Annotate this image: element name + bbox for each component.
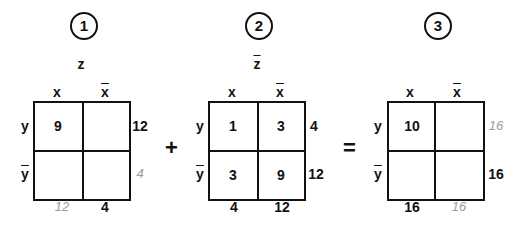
row-label-y-bar: y: [190, 166, 210, 182]
row-label-y: y: [190, 118, 210, 134]
cell-xbar-ybar: 9: [266, 167, 296, 183]
cell-xy: 10: [397, 118, 427, 134]
handwritten-col-total-1: 12: [50, 199, 74, 214]
row-label-y: y: [15, 118, 35, 134]
handwritten-row-total-1: 16: [484, 118, 508, 133]
row-total-1: 4: [302, 118, 326, 134]
row-total-2: 12: [304, 166, 328, 182]
map-number-badge: 2: [245, 12, 273, 40]
handwritten-row-total-2: 4: [128, 166, 152, 181]
col-label-x-bar: x: [95, 84, 115, 100]
cell-xy: 1: [218, 118, 248, 134]
cell-x-ybar: 3: [218, 167, 248, 183]
row-total-2: 16: [484, 166, 508, 182]
map-title: z: [247, 56, 267, 72]
row-label-y: y: [368, 118, 388, 134]
cell-xy: 9: [43, 118, 73, 134]
col-label-x-bar: x: [270, 84, 290, 100]
row-label-y-bar: y: [15, 166, 35, 182]
kmap-grid: 10: [387, 101, 485, 201]
col-label-x: x: [47, 84, 67, 100]
col-label-x-bar: x: [447, 84, 467, 100]
kmap-grid: 9: [33, 101, 131, 201]
map-number-badge: 1: [70, 12, 98, 40]
map-number-badge: 3: [424, 12, 452, 40]
cell-xbar-y: 3: [266, 118, 296, 134]
plus-operator: +: [165, 135, 178, 161]
kmap-grid: 1 3 3 9: [208, 101, 306, 201]
map-title: z: [71, 56, 91, 72]
col-label-x: x: [222, 84, 242, 100]
col-total-1: 4: [222, 199, 246, 215]
col-label-x: x: [400, 84, 420, 100]
col-total-2: 4: [93, 199, 117, 215]
col-total-2: 12: [270, 199, 294, 215]
row-label-y-bar: y: [368, 166, 388, 182]
row-total-1: 12: [128, 118, 152, 134]
equals-operator: =: [343, 135, 356, 161]
handwritten-col-total-2: 16: [447, 199, 471, 214]
col-total-1: 16: [400, 199, 424, 215]
